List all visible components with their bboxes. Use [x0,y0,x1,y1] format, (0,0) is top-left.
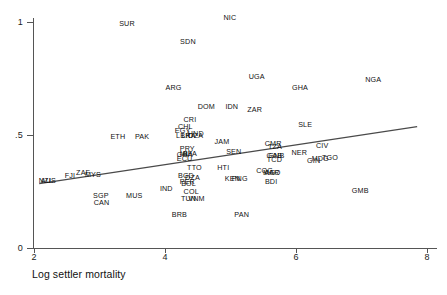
data-point-label: GIN [307,157,320,165]
data-point-label: DOM [198,103,215,111]
regression-line [0,0,447,295]
x-tick-label: 8 [417,252,437,262]
data-point-label: IND [160,185,173,193]
data-point-label: SEN [226,148,241,156]
data-point-label: TCD [267,156,282,164]
data-point-label: AGO [264,169,280,177]
data-point-label: DZA [188,132,203,140]
data-point-label: AUS [41,177,56,185]
data-point-label: SLE [298,121,312,129]
data-point-label: CAN [94,199,110,207]
data-point-label: ZAR [247,106,262,114]
y-tick-mark [27,135,33,136]
data-point-label: SUR [119,20,135,28]
y-tick-label: 0 [2,243,23,253]
data-point-label: SDN [180,38,196,46]
data-point-label: VNM [188,195,204,203]
y-axis-line [33,18,34,248]
data-point-label: IDN [225,103,238,111]
y-tick-label: .5 [2,130,23,140]
data-point-label: ETH [110,133,125,141]
data-point-label: PAN [234,211,249,219]
x-tick-label: 4 [155,252,175,262]
data-point-label: NGA [365,76,381,84]
x-axis-title: Log settler mortality [32,268,126,280]
data-point-label: MYS [85,171,101,179]
data-point-label: JAM [215,138,230,146]
x-axis-line [33,248,437,249]
data-point-label: TGO [322,154,338,162]
data-point-label: MUS [126,192,142,200]
x-tick-label: 2 [24,252,44,262]
data-point-label: PAK [135,133,149,141]
data-point-label: GMB [352,187,369,195]
y-tick-label: 1 [2,17,23,27]
data-point-label: HTI [217,164,229,172]
scatter-plot-figure: 0.51 2468 SURNICSDNUGANGAGHAARGDOMIDNZAR… [0,0,447,295]
plot-area: 0.51 2468 SURNICSDNUGANGAGHAARGDOMIDNZAR… [0,0,447,295]
data-point-label: CIV [316,142,328,150]
y-tick-mark [27,248,33,249]
y-tick-mark [27,22,33,23]
x-tick-label: 6 [286,252,306,262]
data-point-label: FJI [65,172,75,180]
data-point-label: BDI [265,178,277,186]
data-point-label: NER [291,149,307,157]
data-point-label: UGA [249,73,265,81]
data-point-label: NIC [223,14,236,22]
data-point-label: GHA [292,84,308,92]
data-point-label: ECU [177,155,193,163]
data-point-label: BRB [172,211,187,219]
data-point-label: PNG [232,175,248,183]
data-point-label: TZA [268,143,282,151]
data-point-label: ARG [165,84,181,92]
